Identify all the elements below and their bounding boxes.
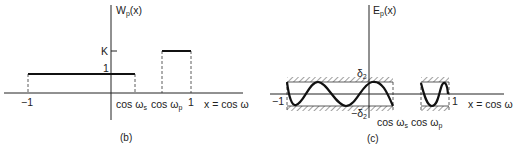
c-y-label-arg: (x) (384, 4, 396, 16)
c-caption: (c) (367, 134, 379, 144)
c-neg-delta-main: −δ (351, 107, 363, 119)
b-x-tick-neg1: −1 (21, 97, 33, 108)
b-x-tick-cos-wp: cos ωp (151, 99, 182, 111)
b-x-tick-1: 1 (188, 97, 194, 108)
b-y-label-arg: (x) (130, 4, 142, 16)
b-cos-wp-main: cos ω (151, 98, 178, 110)
b-cos-ws-main: cos ω (116, 98, 143, 110)
b-x-tick-cos-ws: cos ωs (116, 99, 147, 111)
c-cos-ws-sub: s (404, 122, 408, 129)
c-cos-ws-main: cos ω (377, 116, 404, 128)
c-neg-delta-sub: 2 (363, 113, 367, 120)
c-x-tick-cos-ws: cos ωs (377, 117, 408, 129)
c-cos-wp-sub: p (438, 122, 442, 129)
c-delta-sub: 2 (363, 73, 367, 80)
c-stop-hatch-bottom (287, 106, 393, 111)
b-tick-1-label: 1 (103, 63, 109, 74)
c-pass-hatch-bottom (421, 106, 449, 111)
c-y-label-main: E (373, 4, 380, 16)
b-cos-wp-sub: p (178, 104, 182, 111)
c-x-tick-1: 1 (452, 96, 458, 107)
c-x-tick-cos-wp: cos ωp (411, 117, 442, 129)
c-cos-wp-main: cos ω (411, 116, 438, 128)
b-x-axis-label: x = cos ω (204, 99, 249, 110)
b-y-axis-label: Wp(x) (116, 5, 142, 17)
c-pass-hatch-top (421, 77, 449, 82)
c-x-axis-label: x = cos ω (468, 99, 513, 110)
b-y-label-main: W (116, 4, 126, 16)
c-tick-neg-delta: −δ2 (351, 108, 367, 120)
b-tick-K-label: K (101, 46, 108, 57)
b-caption: (b) (120, 133, 132, 143)
c-x-tick-neg1: −1 (272, 96, 284, 107)
c-y-axis-label: Ep(x) (373, 5, 396, 17)
b-cos-ws-sub: s (143, 104, 147, 111)
c-tick-delta: δ2 (357, 68, 367, 80)
